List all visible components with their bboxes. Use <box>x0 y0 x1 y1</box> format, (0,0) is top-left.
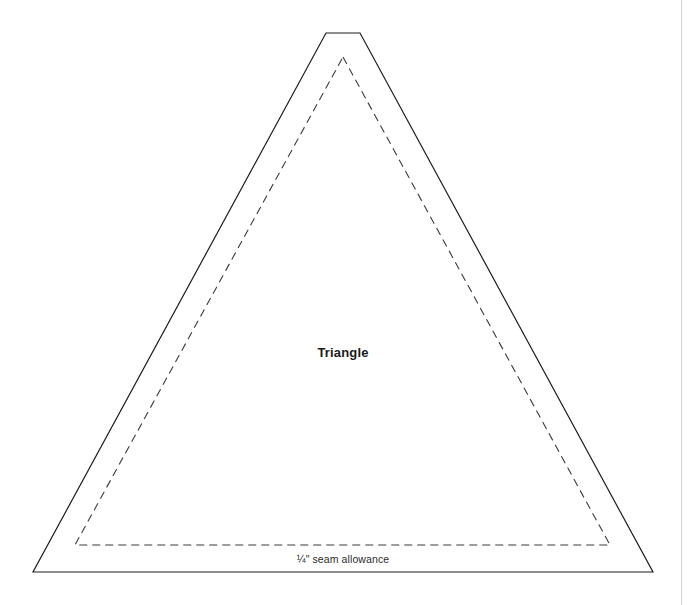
piece-name-label: Triangle <box>317 345 368 360</box>
pattern-page: Triangle ¼" seam allowance <box>0 0 690 605</box>
pattern-drawing <box>0 0 690 605</box>
seam-allowance-label: ¼" seam allowance <box>297 553 389 565</box>
outer-cut-line <box>33 33 653 572</box>
right-page-edge <box>681 0 682 605</box>
